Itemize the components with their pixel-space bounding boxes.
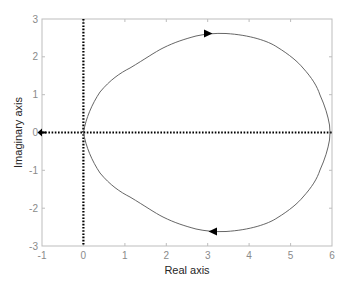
x-tick-label: 5 [288, 250, 294, 261]
y-tick-label: -1 [29, 165, 38, 176]
x-tick-label: 2 [164, 250, 170, 261]
y-tick-label: 2 [32, 51, 38, 62]
x-tick-label: 1 [122, 250, 128, 261]
x-tick-labels: -1 0 1 2 3 4 5 6 [38, 250, 336, 261]
y-tick-label: 1 [32, 89, 38, 100]
real-axis-arrow-left-icon [38, 129, 43, 137]
x-tick-label: -1 [38, 250, 47, 261]
y-tick-label: -2 [29, 203, 38, 214]
nyquist-plot: -1 0 1 2 3 4 5 6 3 2 1 0 -1 -2 -3 Real a… [0, 0, 353, 289]
x-tick-label: 0 [81, 250, 87, 261]
x-axis-label: Real axis [164, 264, 210, 276]
x-tick-label: 3 [205, 250, 211, 261]
x-tick-label: 6 [329, 250, 335, 261]
x-tick-label: 4 [246, 250, 252, 261]
y-tick-label: -3 [29, 241, 38, 252]
y-axis-label: Imaginary axis [12, 97, 24, 168]
y-tick-label: 3 [32, 14, 38, 25]
y-tick-labels: 3 2 1 0 -1 -2 -3 [29, 14, 38, 252]
